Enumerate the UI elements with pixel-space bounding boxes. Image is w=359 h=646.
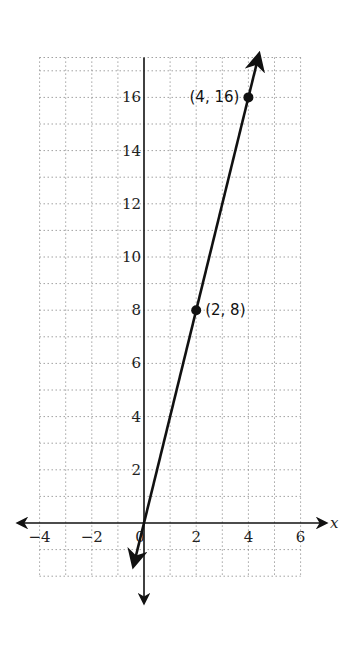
x-axis-label: x (330, 514, 339, 532)
y-tick-label: 12 (122, 195, 141, 213)
data-point-label: (2, 8) (205, 301, 245, 319)
x-tick-label: −2 (81, 528, 103, 546)
data-point (243, 92, 253, 102)
x-tick-label: −4 (29, 528, 51, 546)
x-tick-label: 2 (191, 528, 201, 546)
y-tick-label: 10 (122, 248, 141, 266)
grid (40, 58, 301, 577)
y-tick-label: 4 (131, 408, 141, 426)
data-point-label: (4, 16) (190, 88, 240, 106)
x-tick-label: 6 (296, 528, 306, 546)
y-tick-label: 2 (131, 461, 141, 479)
y-tick-label: 8 (131, 301, 141, 319)
line-chart: x −4−20246246810121416 (2, 8)(4, 16) (0, 0, 359, 646)
y-tick-label: 16 (122, 88, 141, 106)
tick-labels: −4−20246246810121416 (29, 88, 306, 546)
data-point (191, 305, 201, 315)
y-tick-label: 14 (122, 142, 141, 160)
y-tick-label: 6 (131, 354, 141, 372)
x-tick-label: 4 (244, 528, 254, 546)
